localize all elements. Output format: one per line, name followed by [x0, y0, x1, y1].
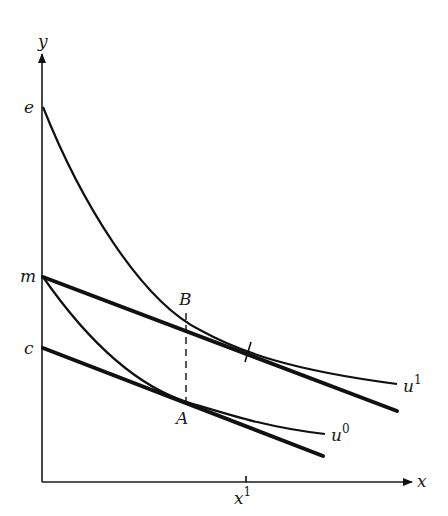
label-point-b: B [178, 289, 192, 309]
label-x1: x1 [234, 485, 251, 508]
label-u0: u0 [331, 422, 350, 445]
x-axis-label: x [417, 471, 427, 491]
label-c: c [24, 338, 34, 358]
label-point-a: A [174, 408, 188, 428]
budget-line-c [43, 348, 323, 456]
y-axis-label: y [37, 31, 48, 51]
label-e: e [24, 97, 34, 117]
label-u1: u1 [403, 373, 422, 396]
indifference-curve-diagram: y x e m c B A u1 u0 x1 [0, 0, 448, 516]
budget-line-m [43, 277, 397, 411]
label-m: m [20, 266, 36, 286]
